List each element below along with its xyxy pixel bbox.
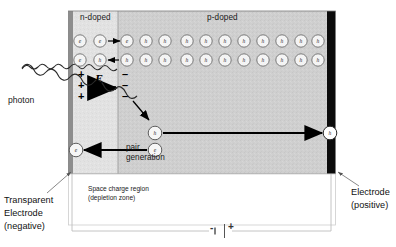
left-electrode-label-line1: Transparent [4,195,53,206]
carrier-label: h [164,57,167,63]
carrier-label: h [99,57,102,63]
carrier-circle: h [94,54,106,66]
carrier-label: h [145,38,148,44]
carrier-label: h [300,38,303,44]
collected-electron: e [69,143,83,157]
battery-positive-terminal-label: + [228,221,234,233]
carrier-circle: h [159,54,171,66]
p-doped-label: p-doped [207,13,238,23]
carrier-label: h [164,38,167,44]
photodiode-diagram: e e e h h h h h h h h h h e h h h h h h … [0,0,396,247]
left-electrode-label-line2: Electrode [4,208,43,219]
carrier-label: h [300,57,303,63]
carrier-circle: h [276,35,288,47]
pair-generation-label-line2: generation [126,153,165,163]
photon-label: photon [8,95,34,105]
carrier-label: h [186,57,189,63]
space-charge-region-label-line2: (depletion zone) [88,194,135,202]
right-electrode-bar [327,11,336,174]
carrier-circle: h [181,54,193,66]
carrier-circle: h [276,54,288,66]
battery-negative-terminal-label: - [210,222,213,234]
carrier-label: h [317,38,320,44]
generated-hole-label: h [154,130,157,136]
carrier-circle: h [219,54,231,66]
carrier-circle: h [200,35,212,47]
carrier-circle: e [121,35,133,47]
carrier-circle: e [74,35,86,47]
carrier-circle: h [140,54,152,66]
carrier-circle: h [257,35,269,47]
carrier-label: h [243,57,246,63]
carrier-circle: h [140,35,152,47]
space-charge-region-label-line1: Space charge region [88,185,149,193]
carrier-label: h [262,57,265,63]
carrier-circle: h [312,54,324,66]
carrier-circle: h [312,35,324,47]
diagram-canvas: e e e h h h h h h h h h h e h h h h h h … [0,0,396,247]
right-electrode-label-line1: Electrode [351,187,390,198]
carrier-circle: h [295,54,307,66]
pair-generation-label-line1: pair [126,143,140,153]
carrier-label: h [145,57,148,63]
collected-hole: h [323,126,337,140]
carrier-circle: h [257,54,269,66]
carrier-label: h [262,38,265,44]
carrier-label: h [224,57,227,63]
carrier-circle: h [200,54,212,66]
carrier-circle: e [94,35,106,47]
carrier-label: h [126,57,129,63]
carrier-circle: e [74,54,86,66]
negative-charge-sign: – [122,90,128,103]
carrier-label: h [186,38,189,44]
carrier-label: h [224,38,227,44]
electric-field-label: E [95,72,103,86]
carrier-label: h [205,38,208,44]
right-electrode-leader [338,172,359,186]
carrier-circle: h [121,54,133,66]
carrier-label: h [281,57,284,63]
right-electrode-label-line2: (positive) [351,200,388,211]
carrier-label: h [243,38,246,44]
carrier-circle: h [295,35,307,47]
carrier-label: h [281,38,284,44]
collected-hole-label: h [329,130,332,136]
carrier-circle: h [159,35,171,47]
generated-hole: h [148,126,162,140]
carrier-circle: h [238,35,250,47]
left-electrode-label-line3: (negative) [4,221,45,232]
carrier-label: h [205,57,208,63]
n-doped-label: n-doped [80,13,111,23]
carrier-label: h [317,57,320,63]
carrier-circle: h [238,54,250,66]
positive-charge-sign: + [78,90,84,103]
carrier-circle: h [181,35,193,47]
left-electrode-leader [47,172,71,193]
carrier-circle: h [219,35,231,47]
